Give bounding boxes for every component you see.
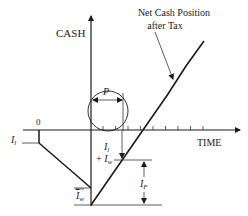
cash-flow-diagram: CASH TIME 0 Net Cash Position after Tax … <box>0 0 248 216</box>
net-cash-position-line <box>91 41 204 205</box>
time-axis-label: TIME <box>197 137 221 148</box>
i-w-label: Iw <box>75 190 84 203</box>
i-f-label: IF <box>139 178 148 191</box>
curve-label-line1: Net Cash Position <box>138 7 210 18</box>
i-l-plus-i-w-label-line2: + Iw <box>96 153 112 166</box>
curve-label-line2: after Tax <box>147 20 182 31</box>
curve-label-leader-arrow <box>155 32 173 79</box>
origin-label: 0 <box>36 117 41 127</box>
payback-circle <box>88 91 128 131</box>
p-label: P <box>102 86 109 97</box>
i-l-label: Il <box>10 134 16 147</box>
investment-diagonal <box>39 143 91 188</box>
cash-axis-label: CASH <box>56 27 85 39</box>
